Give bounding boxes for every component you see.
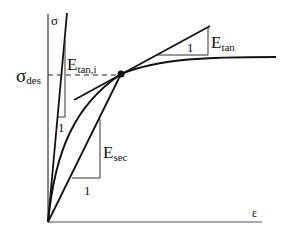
secant-triangle: [72, 119, 100, 178]
e-tan-label: Etan: [211, 33, 235, 53]
secant-unit-label: 1: [84, 183, 91, 198]
stress-strain-diagram: σ ε σdes 1 Etan,i 1 Etan 1 Esec: [0, 0, 287, 234]
y-axis-label: σ: [51, 13, 58, 28]
design-point-marker: [118, 71, 125, 78]
e-tan-i-label: Etan,i: [67, 55, 97, 75]
sigma-des-label: σdes: [16, 65, 41, 86]
initial-tangent-unit-label: 1: [58, 120, 65, 135]
e-sec-label: Esec: [103, 143, 128, 163]
tangent-unit-label: 1: [187, 40, 194, 55]
stress-strain-curve: [48, 57, 276, 222]
x-axis-label: ε: [252, 206, 257, 220]
